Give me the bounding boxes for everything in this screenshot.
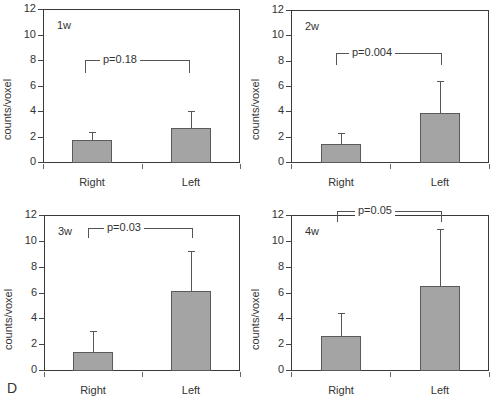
- y-tick-label: 6: [264, 286, 284, 298]
- y-tick: [39, 241, 44, 242]
- y-tick: [38, 137, 43, 138]
- y-tick: [286, 267, 291, 268]
- significance-bracket-leg: [337, 211, 338, 222]
- panel-title: 2w: [305, 20, 319, 32]
- panel-title: 1w: [57, 19, 71, 31]
- y-tick: [38, 86, 43, 87]
- x-tick: [240, 164, 241, 169]
- p-value-label: p=0.18: [100, 53, 140, 65]
- y-tick-label: 6: [16, 79, 36, 91]
- x-tick-label: Left: [161, 176, 221, 188]
- error-bar: [341, 313, 342, 336]
- y-tick-label: 0: [264, 155, 284, 167]
- x-tick: [291, 164, 292, 169]
- error-bar: [341, 133, 342, 144]
- panel-title: 3w: [58, 225, 72, 237]
- bar-right: [73, 352, 113, 371]
- y-tick-label: 6: [17, 286, 37, 298]
- y-axis-title: counts/voxel: [2, 289, 14, 350]
- y-tick: [286, 137, 291, 138]
- error-bar-cap: [188, 111, 195, 112]
- y-tick-label: 4: [16, 104, 36, 116]
- y-tick-label: 8: [264, 54, 284, 66]
- significance-bracket-leg: [441, 211, 442, 222]
- y-tick-label: 2: [264, 337, 284, 349]
- y-tick: [286, 370, 291, 371]
- y-tick: [39, 293, 44, 294]
- error-bar: [191, 251, 192, 291]
- bar-right: [321, 336, 361, 371]
- x-tick-label: Left: [410, 176, 470, 188]
- y-tick: [286, 293, 291, 294]
- y-tick: [286, 61, 291, 62]
- y-tick-label: 4: [264, 104, 284, 116]
- y-tick: [38, 9, 43, 10]
- error-bar: [93, 331, 94, 352]
- x-tick: [240, 372, 241, 377]
- y-tick-label: 2: [16, 130, 36, 142]
- y-tick: [38, 35, 43, 36]
- bar-left: [171, 291, 211, 371]
- y-tick: [286, 241, 291, 242]
- y-tick-label: 4: [264, 311, 284, 323]
- x-tick-label: Right: [311, 384, 371, 396]
- y-tick: [286, 10, 291, 11]
- y-tick: [39, 318, 44, 319]
- y-axis-title: counts/voxel: [249, 289, 261, 350]
- y-tick: [39, 267, 44, 268]
- significance-bracket-leg: [336, 53, 337, 65]
- bar-left: [420, 286, 460, 371]
- y-tick-label: 12: [17, 208, 37, 220]
- y-tick-label: 0: [16, 155, 36, 167]
- y-tick-label: 12: [264, 3, 284, 15]
- error-bar: [191, 111, 192, 128]
- p-value-label: p=0.004: [349, 46, 395, 58]
- y-tick-label: 0: [17, 363, 37, 375]
- y-tick-label: 12: [264, 208, 284, 220]
- x-tick: [291, 372, 292, 377]
- y-tick-label: 4: [17, 311, 37, 323]
- y-axis-title: counts/voxel: [249, 79, 261, 140]
- x-tick: [489, 372, 490, 377]
- x-tick: [44, 372, 45, 377]
- y-tick-label: 10: [264, 28, 284, 40]
- error-bar: [92, 132, 93, 140]
- y-tick-label: 2: [17, 337, 37, 349]
- y-tick: [286, 344, 291, 345]
- p-value-label: p=0.03: [104, 221, 144, 233]
- x-tick: [390, 164, 391, 169]
- error-bar-cap: [188, 251, 195, 252]
- error-bar-cap: [437, 229, 444, 230]
- x-tick-label: Right: [311, 176, 371, 188]
- bar-right: [72, 140, 112, 163]
- significance-bracket-leg: [441, 53, 442, 65]
- x-tick: [390, 372, 391, 377]
- y-tick: [286, 162, 291, 163]
- x-tick: [142, 372, 143, 377]
- y-tick: [38, 60, 43, 61]
- y-tick-label: 10: [264, 234, 284, 246]
- bar-right: [321, 144, 361, 163]
- error-bar: [440, 229, 441, 286]
- significance-bracket-leg: [85, 60, 86, 73]
- y-tick: [286, 111, 291, 112]
- y-tick: [38, 162, 43, 163]
- y-tick-label: 2: [264, 130, 284, 142]
- significance-bracket-leg: [189, 60, 190, 73]
- error-bar-cap: [338, 133, 345, 134]
- y-tick: [286, 318, 291, 319]
- y-tick: [286, 35, 291, 36]
- y-tick: [38, 111, 43, 112]
- y-tick: [39, 215, 44, 216]
- x-tick: [489, 164, 490, 169]
- error-bar-cap: [437, 81, 444, 82]
- bar-left: [171, 128, 211, 163]
- y-tick: [286, 86, 291, 87]
- y-tick-label: 6: [264, 79, 284, 91]
- x-tick: [142, 164, 143, 169]
- y-tick: [286, 215, 291, 216]
- significance-bracket-leg: [192, 228, 193, 238]
- x-tick-label: Left: [161, 384, 221, 396]
- y-tick-label: 8: [264, 260, 284, 272]
- y-tick-label: 8: [16, 53, 36, 65]
